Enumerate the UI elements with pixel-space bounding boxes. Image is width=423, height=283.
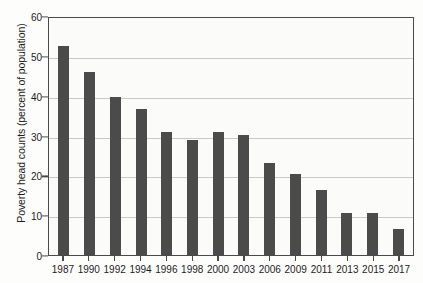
bar-slot xyxy=(360,18,386,255)
poverty-head-counts-bar-chart: Poverty head counts (percent of populati… xyxy=(0,0,423,283)
x-axis-tick-mark xyxy=(373,256,374,261)
x-axis-tick-mark xyxy=(243,256,244,261)
bar-2011 xyxy=(316,190,327,255)
bar-slot xyxy=(257,18,283,255)
bar-2009 xyxy=(290,174,301,255)
bar-slot xyxy=(334,18,360,255)
bar-2003 xyxy=(238,135,249,255)
bar-1994 xyxy=(136,109,147,255)
x-axis-tick-2017: 2017 xyxy=(379,256,419,275)
x-axis-tick-label: 2017 xyxy=(379,264,419,275)
x-axis-tick-mark xyxy=(295,256,296,261)
bar-2006 xyxy=(264,163,275,255)
bar-slot xyxy=(77,18,103,255)
bar-slot xyxy=(128,18,154,255)
bar-1996 xyxy=(161,132,172,255)
x-axis-tick-mark xyxy=(321,256,322,261)
y-axis-tick-label: 60 xyxy=(8,12,42,23)
y-axis-tick-label: 20 xyxy=(8,171,42,182)
bar-1998 xyxy=(187,140,198,255)
x-axis-tick-mark xyxy=(166,256,167,261)
x-axis-tick-mark xyxy=(62,256,63,261)
bar-slot xyxy=(282,18,308,255)
bar-slot xyxy=(385,18,411,255)
bar-2013 xyxy=(341,213,352,255)
x-axis-tick-mark xyxy=(217,256,218,261)
x-axis-tick-mark xyxy=(398,256,399,261)
y-axis-tick-label: 50 xyxy=(8,51,42,62)
x-axis-tick-mark xyxy=(88,256,89,261)
x-axis-tick-mark xyxy=(140,256,141,261)
bar-slot xyxy=(154,18,180,255)
bar-slot xyxy=(231,18,257,255)
bar-1987 xyxy=(58,46,69,255)
bar-slot xyxy=(205,18,231,255)
bar-slot xyxy=(102,18,128,255)
y-axis-tick-label: 40 xyxy=(8,91,42,102)
bar-slot xyxy=(308,18,334,255)
y-axis-tick-label: 10 xyxy=(8,211,42,222)
y-axis-tick-label: 30 xyxy=(8,131,42,142)
bar-1990 xyxy=(84,72,95,255)
bar-1992 xyxy=(110,97,121,255)
bars-layer xyxy=(49,18,413,255)
bar-2017 xyxy=(393,229,404,255)
x-axis-tick-mark xyxy=(347,256,348,261)
x-axis-tick-mark xyxy=(114,256,115,261)
bar-slot xyxy=(51,18,77,255)
bar-2015 xyxy=(367,213,378,255)
plot-area xyxy=(48,17,414,256)
bar-2000 xyxy=(213,132,224,255)
x-axis: 1987199019921994199619982000200320062009… xyxy=(48,256,414,283)
x-axis-tick-mark xyxy=(269,256,270,261)
y-axis-tick-label: 0 xyxy=(8,251,42,262)
x-axis-tick-mark xyxy=(192,256,193,261)
bar-slot xyxy=(180,18,206,255)
